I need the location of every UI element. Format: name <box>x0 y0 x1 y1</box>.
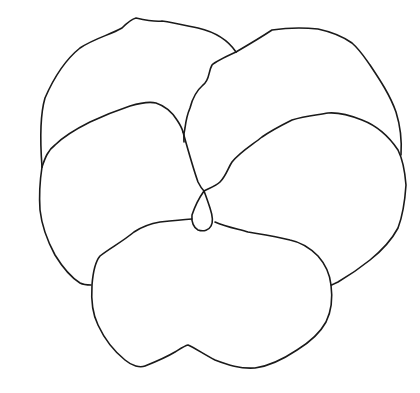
middle-left-petal <box>42 102 183 167</box>
middle-left-petal-outer-edge <box>40 167 91 285</box>
middle-right-petal <box>204 113 406 285</box>
drawing-canvas <box>0 0 420 393</box>
top-right-petal-inner-edge <box>184 52 236 142</box>
bottom-petal <box>92 219 332 368</box>
pansy-drawing <box>0 0 420 393</box>
center-loop <box>192 191 213 231</box>
top-left-petal <box>41 18 236 167</box>
top-right-petal <box>236 28 401 155</box>
center-divider <box>183 132 204 191</box>
